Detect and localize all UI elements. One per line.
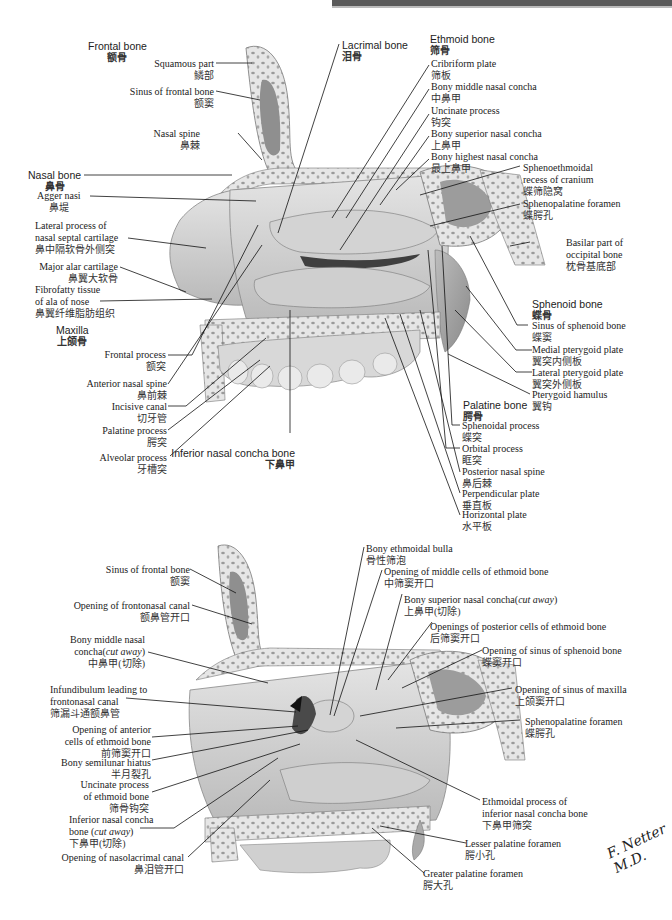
label-infundibulum: Infundibulum leading to frontonasal cana…	[50, 684, 147, 720]
label-lesser-palatine: Lesser palatine foramen 腭小孔	[465, 838, 561, 862]
label-maxilla: Maxilla 上颌骨	[56, 324, 89, 348]
label-en: Lacrimal bone	[342, 39, 408, 51]
label-zh: 上颌窦开口	[515, 696, 627, 708]
label-zh: 蝶窦开口	[482, 657, 622, 669]
label-en: Sphenoidal process	[462, 420, 540, 432]
label-en: recess of cranium	[523, 174, 594, 186]
label-zh: 额突	[105, 361, 166, 373]
label-zh: 泪骨	[342, 51, 408, 63]
label-en: Pterygoid hamulus	[532, 389, 607, 401]
text-italic: cut away	[518, 594, 554, 605]
label-sphenoid-bone: Sphenoid bone 蝶骨	[532, 298, 603, 322]
label-zh: 上鼻甲(切除)	[404, 606, 557, 618]
label-en: Incisive canal	[112, 401, 167, 413]
label-en: Fibrofatty tissue	[35, 284, 115, 296]
label-zh: 蝶窦	[532, 332, 626, 344]
label-en: Ethmoid bone	[430, 33, 495, 45]
label-en: Horizontal plate	[462, 509, 527, 521]
label-en: Lateral pterygoid plate	[532, 367, 623, 379]
label-zh: 额窦	[130, 98, 214, 110]
label-sinus-frontal-bottom: Sinus of frontal bone 额窦	[106, 564, 190, 588]
label-zh: 牙槽突	[100, 464, 167, 476]
label-en: Nasal bone	[28, 169, 81, 181]
label-en: Ethmoidal process of	[482, 796, 588, 808]
text-part: concha(	[74, 646, 106, 657]
label-inferior-concha: Inferior nasal concha bone 下鼻甲	[171, 447, 295, 471]
label-en: Bony highest nasal concha	[431, 151, 538, 163]
label-en: Opening of middle cells of ethmoid bone	[384, 566, 548, 578]
label-en: Inferior nasal concha	[69, 814, 153, 826]
label-en: Agger nasi	[37, 190, 81, 202]
label-en: Bony semilunar hiatus	[61, 757, 151, 769]
label-en: Sphenoethmoidal	[523, 162, 594, 174]
label-en: Bony middle nasal concha	[431, 81, 537, 93]
label-en: Major alar cartilage	[39, 261, 118, 273]
text-part: )	[142, 646, 145, 657]
label-en: Sphenopalatine foramen	[523, 198, 620, 210]
label-en: Sinus of frontal bone	[130, 86, 214, 98]
label-en: Frontal process	[105, 349, 166, 361]
label-zh: 下鼻甲	[171, 459, 295, 471]
label-uncinate-ethmoid: Uncinate process of ethmoid bone 筛骨钩突	[80, 779, 149, 815]
label-en: Greater palatine foramen	[423, 868, 523, 880]
text-italic: cut away	[106, 646, 142, 657]
label-cribriform: Cribriform plate 筛板	[431, 58, 496, 82]
label-bony-highest-concha: Bony highest nasal concha 最上鼻甲	[431, 151, 538, 175]
label-horizontal-plate: Horizontal plate 水平板	[462, 509, 527, 533]
label-en: Lesser palatine foramen	[465, 838, 561, 850]
label-zh: 鳞部	[154, 70, 214, 82]
label-ethmoidal-process: Ethmoidal process of inferior nasal conc…	[482, 796, 588, 832]
label-en: Posterior nasal spine	[462, 466, 545, 478]
label-sinus-frontal: Sinus of frontal bone 额窦	[130, 86, 214, 110]
label-zh: 鼻翼纤维脂肪组织	[35, 308, 115, 320]
label-en: cells of ethmoid bone	[65, 736, 151, 748]
label-squamous-part: Squamous part 鳞部	[154, 58, 214, 82]
label-en: Opening of nasolacrimal canal	[62, 852, 184, 864]
label-en: Squamous part	[154, 58, 214, 70]
label-en: Bony ethmoidal bulla	[366, 543, 453, 555]
label-posterior-nasal-spine: Posterior nasal spine 鼻后棘	[462, 466, 545, 490]
label-zh: 水平板	[462, 521, 527, 533]
label-en: Opening of frontonasal canal	[74, 600, 190, 612]
label-uncinate: Uncinate process 钩突	[431, 105, 500, 129]
label-en: Alveolar process	[100, 452, 167, 464]
label-frontal-bone: Frontal bone 额骨	[88, 40, 147, 64]
label-en: Opening of anterior	[65, 724, 151, 736]
label-frontal-process: Frontal process 额突	[105, 349, 166, 373]
label-en: Sphenopalatine foramen	[525, 716, 622, 728]
label-superior-concha-cut: Bony superior nasal concha(cut away) 上鼻甲…	[404, 594, 557, 618]
label-en: occipital bone	[566, 249, 623, 261]
label-nasolacrimal: Opening of nasolacrimal canal 鼻泪管开口	[62, 852, 184, 876]
label-en: Perpendicular plate	[462, 488, 539, 500]
label-agger-nasi: Agger nasi 鼻堤	[37, 190, 81, 214]
label-sphenoidal-process: Sphenoidal process 蝶突	[462, 420, 540, 444]
label-en: Maxilla	[56, 324, 89, 336]
label-frontonasal-opening: Opening of frontonasal canal 额鼻管开口	[74, 600, 190, 624]
label-zh: 鼻中隔软骨外侧突	[35, 244, 118, 256]
label-palatine-process: Palatine process 腭突	[102, 425, 167, 449]
label-zh: 最上鼻甲	[431, 163, 538, 175]
text-part: Bony superior nasal concha(	[404, 594, 518, 605]
label-zh: 腭小孔	[465, 850, 561, 862]
label-zh: 腭突	[102, 437, 167, 449]
text-part: )	[130, 826, 133, 837]
label-ethmoidal-bulla: Bony ethmoidal bulla 骨性筛泡	[366, 543, 453, 567]
label-semilunar-hiatus: Bony semilunar hiatus 半月裂孔	[61, 757, 151, 781]
label-basilar: Basilar part of occipital bone 枕骨基底部	[566, 237, 623, 273]
label-en: Infundibulum leading to	[50, 684, 147, 696]
label-lateral-pterygoid: Lateral pterygoid plate 翼突外侧板	[532, 367, 623, 391]
label-sphenopalatine-bottom: Sphenopalatine foramen 蝶腭孔	[525, 716, 622, 740]
label-en: Cribriform plate	[431, 58, 496, 70]
label-zh: 翼钩	[532, 401, 607, 413]
label-en: Bony superior nasal concha	[431, 128, 542, 140]
label-zh: 枕骨基底部	[566, 261, 623, 273]
label-zh: 筛骨	[430, 45, 495, 57]
label-en: Bony middle nasal	[70, 634, 145, 646]
label-middle-concha-cut: Bony middle nasal concha(cut away) 中鼻甲(切…	[70, 634, 145, 670]
label-en: Nasal spine	[154, 128, 200, 140]
label-zh: 额骨	[88, 52, 147, 64]
label-zh: 鼻泪管开口	[62, 864, 184, 876]
label-zh: 腭大孔	[423, 880, 523, 892]
label-zh: 鼻堤	[37, 202, 81, 214]
label-sphenoethmoidal: Sphenoethmoidal recess of cranium 蝶筛隐窝	[523, 162, 594, 198]
